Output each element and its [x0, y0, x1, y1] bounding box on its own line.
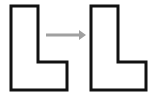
figure-canvas: [0, 0, 154, 98]
l-shape-transformation-diagram: [0, 0, 154, 98]
